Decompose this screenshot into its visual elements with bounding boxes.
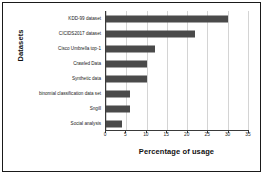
y-tick-label: CICIDS2017 dataset <box>59 31 101 36</box>
y-tick-label: KDD-99 dataset <box>68 16 101 21</box>
x-tick-label: 0 <box>104 133 107 138</box>
bar <box>106 30 195 37</box>
gridline <box>228 11 229 130</box>
y-tick-label: Social analysis <box>71 121 101 126</box>
bar <box>106 120 122 127</box>
gridline <box>106 11 107 130</box>
x-tick-label: 35 <box>245 133 250 138</box>
x-tick-label: 30 <box>225 133 230 138</box>
plot-wrapper: Social analysisSngillbinomial classifica… <box>21 11 252 163</box>
chart-container: Datasets Social analysisSngillbinomial c… <box>2 2 261 172</box>
y-tick-label: Synthetic data <box>72 76 101 81</box>
bar <box>106 90 130 97</box>
x-tick-label: 20 <box>184 133 189 138</box>
x-tick-label: 5 <box>124 133 127 138</box>
x-tick-label: 10 <box>143 133 148 138</box>
x-tick-label: 15 <box>164 133 169 138</box>
x-axis-title: Percentage of usage <box>105 147 248 156</box>
gridline <box>248 11 249 130</box>
gridline <box>167 11 168 130</box>
y-axis-category-labels: Social analysisSngillbinomial classifica… <box>21 11 103 131</box>
x-axis-ticks: 05101520253035 <box>105 133 248 145</box>
y-tick-label: Cisco Umbrella top-1 <box>58 46 101 51</box>
bar <box>106 75 147 82</box>
gridline <box>207 11 208 130</box>
bar <box>106 45 155 52</box>
gridline <box>187 11 188 130</box>
bar <box>106 105 130 112</box>
plot-area <box>105 11 248 131</box>
gridline <box>147 11 148 130</box>
bar <box>106 60 147 67</box>
y-tick-label: Sngill <box>90 106 101 111</box>
y-tick-label: Crawled Data <box>73 61 101 66</box>
y-tick-label: binomial classification data set <box>39 91 101 96</box>
bar <box>106 15 228 22</box>
gridline <box>126 11 127 130</box>
x-tick-label: 25 <box>204 133 209 138</box>
